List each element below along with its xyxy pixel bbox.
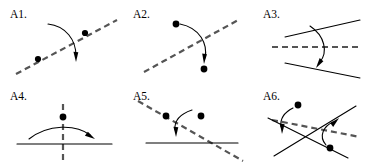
point-dot-2 <box>201 66 208 73</box>
panel-label-a3: A3. <box>263 8 280 20</box>
point-dot-2 <box>327 145 334 152</box>
panel-label-a6: A6. <box>263 90 280 102</box>
point-dot-1 <box>163 113 170 120</box>
panel-label-a1: A1. <box>10 8 27 20</box>
point-dot-1 <box>295 102 302 109</box>
point-dot-1 <box>35 56 41 62</box>
figure-container: A1.A2.A3.A4.A5.A6. <box>0 0 370 165</box>
panel-label-a5: A5. <box>133 90 150 102</box>
point-dot-2 <box>82 30 88 36</box>
panel-label-a2: A2. <box>133 8 150 20</box>
panel-label-a4: A4. <box>10 90 27 102</box>
point-dot-1 <box>60 114 67 121</box>
point-dot-1 <box>173 21 180 28</box>
geometry-figure: A1.A2.A3.A4.A5.A6. <box>0 0 370 165</box>
point-dot-2 <box>198 113 205 120</box>
